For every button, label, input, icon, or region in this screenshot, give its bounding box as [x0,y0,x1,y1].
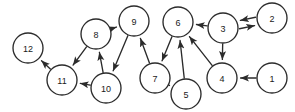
graph-node-label-12: 12 [23,44,33,54]
graph-node-11[interactable]: 11 [47,65,77,95]
graph-node-5[interactable]: 5 [171,79,201,109]
graph-node-6[interactable]: 6 [163,7,193,37]
graph-edge-9-to-10 [113,36,128,71]
directed-graph-canvas: 123456789101112 [0,0,295,112]
graph-node-label-10: 10 [101,84,111,94]
graph-figure: 123456789101112 [0,0,295,112]
graph-node-label-11: 11 [57,76,66,86]
graph-edge-8-to-9 [111,27,116,29]
graph-node-2[interactable]: 2 [257,3,287,33]
graph-node-10[interactable]: 10 [91,73,121,103]
graph-node-7[interactable]: 7 [140,63,170,93]
graph-edge-6-to-7 [162,37,172,61]
graph-node-1[interactable]: 1 [257,63,287,93]
graph-node-4[interactable]: 4 [207,63,237,93]
graph-node-label-7: 7 [152,74,157,84]
graph-edge-8-to-11 [73,47,86,65]
graph-node-3[interactable]: 3 [208,13,238,43]
graph-edge-3-to-6 [196,24,207,25]
graph-edge-3-to-2 [239,26,254,29]
graph-edge-10-to-8 [99,52,103,72]
graph-edge-5-to-6 [180,40,184,78]
graph-node-label-4: 4 [219,74,224,84]
graph-edge-7-to-9 [140,38,149,63]
graph-node-12[interactable]: 12 [13,33,43,63]
graph-node-label-5: 5 [183,90,188,100]
graph-edge-10-to-11 [80,83,90,85]
graph-node-label-8: 8 [93,30,98,40]
graph-node-label-2: 2 [269,14,274,24]
graph-edge-11-to-12 [42,61,51,69]
graph-node-8[interactable]: 8 [81,19,111,49]
graph-edge-4-to-6 [189,37,212,66]
graph-node-label-9: 9 [131,17,136,27]
graph-node-label-1: 1 [269,74,274,84]
graph-edge-2-to-3 [240,17,255,20]
graph-node-9[interactable]: 9 [119,6,149,36]
graph-node-label-6: 6 [175,18,180,28]
graph-node-label-3: 3 [220,24,225,34]
